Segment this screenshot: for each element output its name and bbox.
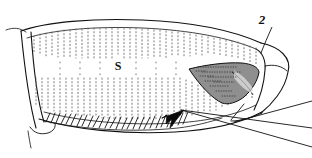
stipple-band-upper bbox=[34, 28, 256, 66]
outline-top-inner bbox=[27, 27, 256, 49]
outline-left-tail bbox=[28, 131, 31, 148]
outline-left-cap-outer bbox=[21, 31, 36, 128]
dark-stippled-lobe bbox=[189, 63, 259, 104]
outline-right-notch bbox=[265, 65, 287, 71]
label-s-text: S bbox=[115, 59, 122, 73]
label-2-group: 2 bbox=[258, 12, 272, 53]
figure-root: 2 S bbox=[0, 0, 312, 158]
outline-left-foot bbox=[30, 123, 55, 134]
leader-line-a bbox=[181, 110, 312, 147]
label-2-leader-line bbox=[261, 27, 272, 53]
outline-left-cap-mid bbox=[6, 28, 26, 32]
leader-line-c bbox=[234, 101, 312, 122]
outline-right-cap-outer bbox=[261, 43, 289, 113]
label-2-text: 2 bbox=[258, 12, 266, 27]
line-drawing-canvas: 2 S bbox=[0, 0, 312, 158]
outline-left-cap-inner bbox=[31, 32, 44, 122]
